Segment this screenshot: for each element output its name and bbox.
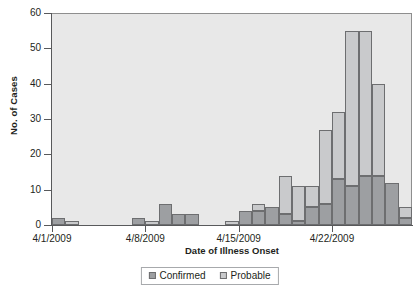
legend-item: Confirmed [148, 270, 205, 281]
bar-segment-probable [399, 207, 412, 218]
bar-column [132, 13, 145, 225]
bar-segment-confirmed [159, 204, 172, 225]
bar-column [319, 13, 332, 225]
y-axis-tick [44, 13, 51, 14]
bar-column [159, 13, 172, 225]
bar-segment-probable [319, 130, 332, 204]
bar-segment-confirmed [359, 176, 372, 225]
bar-segment-probable [359, 31, 372, 176]
y-axis-tick [44, 154, 51, 155]
bar-segment-confirmed [305, 207, 318, 225]
x-axis-tick-label: 4/15/2009 [204, 233, 274, 244]
bar-column [172, 13, 185, 225]
chart-legend: ConfirmedProbable [140, 267, 278, 285]
bar-segment-probable [332, 112, 345, 179]
epidemic-curve-chart: No. of Cases 0102030405060 4/1/20094/8/2… [0, 0, 419, 292]
legend-swatch-icon [148, 272, 155, 279]
y-axis-line [51, 13, 52, 226]
bar-segment-confirmed [52, 218, 65, 225]
y-axis-title: No. of Cases [8, 46, 19, 166]
bar-segment-confirmed [279, 214, 292, 225]
y-axis-tick-label: 50 [0, 43, 41, 53]
x-axis-tick [239, 226, 240, 232]
plot-area [52, 13, 412, 225]
y-axis-tick [44, 84, 51, 85]
bar-column [332, 13, 345, 225]
bar-segment-probable [252, 204, 265, 211]
y-axis-tick [44, 119, 51, 120]
bar-column [185, 13, 198, 225]
y-axis-tick-label: 0 [0, 220, 41, 230]
y-axis-tick-label: 30 [0, 114, 41, 124]
bar-column [345, 13, 358, 225]
bar-segment-confirmed [239, 211, 252, 225]
bar-segment-confirmed [345, 186, 358, 225]
bar-segment-confirmed [132, 218, 145, 225]
bar-segment-probable [292, 186, 305, 221]
bar-column [279, 13, 292, 225]
bar-column [265, 13, 278, 225]
x-axis-tick-label: 4/1/2009 [17, 233, 87, 244]
bar-column [52, 13, 65, 225]
bar-segment-confirmed [319, 204, 332, 225]
x-axis-tick [52, 226, 53, 232]
legend-label: Confirmed [159, 270, 205, 281]
bar-segment-confirmed [185, 214, 198, 225]
bar-segment-confirmed [252, 211, 265, 225]
bar-column [359, 13, 372, 225]
x-axis-line [51, 225, 413, 226]
x-axis-tick [332, 226, 333, 232]
bar-segment-confirmed [372, 176, 385, 225]
bar-column [305, 13, 318, 225]
bar-column [292, 13, 305, 225]
bar-column [372, 13, 385, 225]
legend-swatch-icon [220, 272, 227, 279]
legend-item: Probable [220, 270, 271, 281]
bar-column [145, 13, 158, 225]
bar-column [385, 13, 398, 225]
bar-column [225, 13, 238, 225]
x-axis-tick [145, 226, 146, 232]
y-axis-tick-label: 40 [0, 79, 41, 89]
y-axis-tick-label: 60 [0, 8, 41, 18]
bar-segment-probable [279, 176, 292, 215]
x-axis-title: Date of Illness Onset [52, 245, 412, 256]
y-axis-tick-label: 10 [0, 185, 41, 195]
bar-segment-confirmed [265, 207, 278, 225]
bar-column [239, 13, 252, 225]
legend-label: Probable [231, 270, 271, 281]
bar-segment-probable [305, 186, 318, 207]
y-axis-tick [44, 48, 51, 49]
bar-segment-confirmed [399, 218, 412, 225]
x-axis-tick-label: 4/8/2009 [110, 233, 180, 244]
bar-segment-confirmed [332, 179, 345, 225]
bar-segment-confirmed [385, 183, 398, 225]
bar-column [399, 13, 412, 225]
bar-column [65, 13, 78, 225]
bar-segment-probable [345, 31, 358, 186]
bar-column [252, 13, 265, 225]
y-axis-tick [44, 190, 51, 191]
y-axis-tick [44, 225, 51, 226]
bar-segment-confirmed [172, 214, 185, 225]
x-axis-tick-label: 4/22/2009 [297, 233, 367, 244]
bar-segment-probable [372, 84, 385, 176]
y-axis-tick-label: 20 [0, 149, 41, 159]
